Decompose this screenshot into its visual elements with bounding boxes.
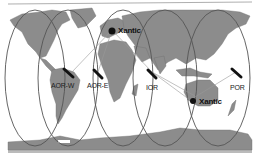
map-top-border xyxy=(8,2,252,4)
map-bottom-border xyxy=(8,150,252,153)
satellite-label-por: POR xyxy=(230,84,245,91)
ice-highlight xyxy=(58,140,70,143)
satellite-label-aor-w: AOR-W xyxy=(51,82,74,89)
satellite-label-ior: IOR xyxy=(146,84,158,91)
world-map xyxy=(0,0,263,157)
satellite-label-aor-e: AOR-E xyxy=(87,82,108,89)
satellite-por-icon xyxy=(232,69,241,77)
station-label-europe: Xantic xyxy=(118,26,141,35)
station-label-australia: Xantic xyxy=(199,97,222,106)
station-australia-icon xyxy=(190,98,196,104)
station-europe-icon xyxy=(109,28,116,35)
